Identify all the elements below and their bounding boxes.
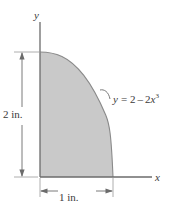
vertical-dimension-arrow-bottom: [19, 170, 24, 178]
equation-leader-line: [100, 90, 110, 99]
curve-equation-label: y=2–2x3: [113, 93, 159, 105]
vertical-dimension-arrow-top: [19, 52, 24, 60]
horizontal-dimension-arrow-right: [106, 188, 114, 193]
vertical-dimension-label: 2 in.: [3, 109, 23, 120]
figure-vector-graphics: [0, 0, 174, 210]
equation-y-term: y: [113, 93, 118, 105]
horizontal-dimension-arrow-left: [40, 188, 48, 193]
figure-canvas: y x 2 in. 1 in. y=2–2x3: [0, 0, 174, 210]
shaded-region: [40, 52, 113, 177]
horizontal-dimension-label: 1 in.: [59, 192, 79, 203]
equation-exponent: 3: [156, 92, 160, 100]
equation-minus-sign: –: [138, 93, 144, 105]
equation-equals-sign: =: [121, 93, 127, 105]
y-axis-label: y: [34, 10, 39, 21]
equation-constant-term: 2: [130, 93, 136, 105]
x-axis-label: x: [155, 172, 160, 183]
